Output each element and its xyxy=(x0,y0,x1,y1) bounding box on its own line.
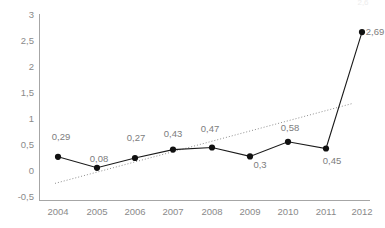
data-label-2005: 0,08 xyxy=(90,153,109,164)
data-point-2009 xyxy=(247,153,253,159)
x-axis-tick-labels: 2004 2005 2006 2007 2008 2009 2010 2011 … xyxy=(47,206,372,217)
y-tick-1-5: 1,5 xyxy=(21,87,34,98)
data-label-2012: 2,69 xyxy=(366,26,385,37)
axis-lines xyxy=(40,14,371,201)
x-tick-2010: 2010 xyxy=(277,206,298,217)
y-tick-minus-0-5: -0,5 xyxy=(18,191,34,202)
x-tick-2011: 2011 xyxy=(316,206,336,217)
trendline xyxy=(55,104,352,184)
data-point-2008 xyxy=(209,144,215,150)
x-tick-2009: 2009 xyxy=(239,206,260,217)
series-markers xyxy=(55,29,365,171)
line-chart: 2,6 3 2,5 2 1,5 1 0,5 0 -0,5 2004 2005 2… xyxy=(0,0,385,228)
x-tick-2007: 2007 xyxy=(162,206,183,217)
data-point-2010 xyxy=(285,139,291,145)
data-point-2006 xyxy=(132,155,138,161)
data-point-2007 xyxy=(170,147,176,153)
y-axis-tick-labels: 3 2,5 2 1,5 1 0,5 0 -0,5 xyxy=(18,9,34,202)
x-tick-2006: 2006 xyxy=(124,206,145,217)
x-tick-2012: 2012 xyxy=(351,206,372,217)
data-label-2008: 0,47 xyxy=(201,123,220,134)
clipped-top-right-artifact: 2,6 xyxy=(357,0,369,7)
x-tick-2004: 2004 xyxy=(47,206,68,217)
data-point-2005 xyxy=(94,165,100,171)
x-tick-2008: 2008 xyxy=(201,206,222,217)
x-tick-2005: 2005 xyxy=(86,206,107,217)
data-point-2004 xyxy=(55,154,61,160)
data-label-2007: 0,43 xyxy=(164,128,183,139)
y-tick-2-5: 2,5 xyxy=(21,35,34,46)
data-label-2009: 0,3 xyxy=(253,159,266,170)
chart-container: 2,6 3 2,5 2 1,5 1 0,5 0 -0,5 2004 2005 2… xyxy=(0,0,385,228)
y-tick-3: 3 xyxy=(29,9,34,20)
data-point-2012 xyxy=(359,29,365,35)
data-label-2006: 0,27 xyxy=(127,132,146,143)
y-tick-2: 2 xyxy=(29,61,34,72)
y-tick-0: 0 xyxy=(29,165,34,176)
data-label-2011: 0,45 xyxy=(323,155,342,166)
data-label-2004: 0,29 xyxy=(52,131,71,142)
data-point-2011 xyxy=(323,145,329,151)
y-tick-0-5: 0,5 xyxy=(21,139,34,150)
y-tick-1: 1 xyxy=(29,113,34,124)
data-label-2010: 0,58 xyxy=(281,122,300,133)
